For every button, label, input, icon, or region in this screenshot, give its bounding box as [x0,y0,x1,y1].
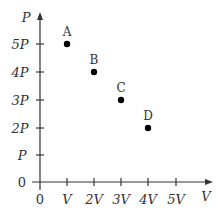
point-b-label: B [90,53,99,67]
x-tick-1: V [62,192,73,207]
x-tick-3: 3V [112,192,131,207]
y-axis-arrow-icon [37,12,43,20]
point-d [145,125,151,131]
x-tick-4: 4V [138,192,158,207]
x-axis-arrow-icon [205,179,213,185]
y-tick-3: 3P [11,93,28,108]
y-tick-5: 5P [11,37,28,52]
point-c-label: C [116,81,125,95]
pv-chart: P V 0 P 2P 3P 4P 5P 0 V 2V 3V 4V 5V A B … [0,0,221,218]
point-c [118,97,124,103]
y-tick-2: 2P [10,121,28,136]
x-tick-2: 2V [84,192,104,207]
y-tick-1: P [17,148,27,163]
point-a [64,41,70,47]
x-tick-0: 0 [36,192,44,207]
y-axis-title: P [21,10,31,25]
data-points [64,41,151,131]
y-tick-4: 4P [10,65,28,80]
point-d-label: D [143,109,153,123]
point-b [91,69,97,75]
x-tick-5: 5V [167,192,186,207]
y-tick-0: 0 [18,175,26,190]
point-a-label: A [62,25,72,39]
x-axis-title: V [201,189,212,204]
